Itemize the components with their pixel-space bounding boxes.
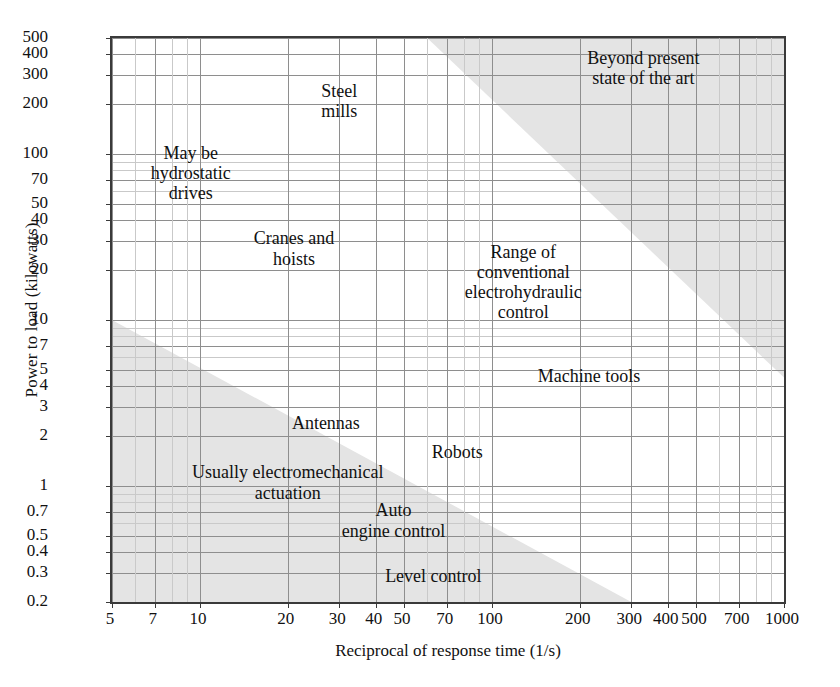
gridline-horizontal: [112, 270, 784, 271]
y-tick-label: 40: [0, 210, 48, 227]
y-tick-label: 300: [0, 64, 48, 81]
gridline-horizontal: [112, 370, 784, 371]
x-tick-label: 70: [436, 610, 453, 627]
y-tick-mark: [106, 180, 112, 181]
y-tick-label: 7: [0, 335, 48, 352]
y-tick-mark: [106, 552, 112, 553]
gridline-horizontal: [112, 502, 784, 503]
y-tick-label: 0.4: [0, 542, 48, 559]
gridline-horizontal: [112, 241, 784, 242]
y-tick-mark: [106, 346, 112, 347]
x-tick-label: 30: [329, 610, 346, 627]
gridline-vertical: [739, 38, 740, 602]
gridline-horizontal: [112, 357, 784, 358]
x-tick-mark: [288, 602, 289, 608]
gridline-horizontal: [112, 54, 784, 55]
gridline-horizontal: [112, 204, 784, 205]
x-tick-mark: [696, 602, 697, 608]
y-tick-label: 4: [0, 376, 48, 393]
y-tick-label: 0.3: [0, 562, 48, 579]
x-tick-mark: [447, 602, 448, 608]
gridline-horizontal: [112, 552, 784, 553]
y-tick-mark: [106, 204, 112, 205]
gridline-horizontal: [112, 523, 784, 524]
y-tick-mark: [106, 573, 112, 574]
gridline-horizontal: [112, 154, 784, 155]
gridline-vertical: [447, 38, 448, 602]
y-tick-mark: [106, 512, 112, 513]
y-tick-mark: [106, 436, 112, 437]
gridline-vertical: [172, 38, 173, 602]
y-tick-mark: [106, 241, 112, 242]
gridline-vertical: [696, 38, 697, 602]
gridline-horizontal: [112, 486, 784, 487]
x-tick-label: 7: [148, 610, 157, 627]
x-tick-mark: [112, 602, 113, 608]
gridline-vertical: [155, 38, 156, 602]
x-tick-label: 1000: [765, 610, 799, 627]
x-tick-mark: [492, 602, 493, 608]
gridline-horizontal: [112, 407, 784, 408]
y-tick-mark: [106, 220, 112, 221]
x-tick-mark: [404, 602, 405, 608]
gridline-horizontal: [112, 38, 784, 39]
gridline-vertical: [464, 38, 465, 602]
x-axis-title: Reciprocal of response time (1/s): [110, 641, 786, 661]
gridline-horizontal: [112, 336, 784, 337]
gridline-vertical: [631, 38, 632, 602]
y-tick-mark: [106, 154, 112, 155]
y-tick-mark: [106, 270, 112, 271]
x-tick-mark: [668, 602, 669, 608]
gridline-horizontal: [112, 346, 784, 347]
x-tick-mark: [155, 602, 156, 608]
x-tick-label: 40: [365, 610, 382, 627]
y-tick-label: 3: [0, 396, 48, 413]
gridline-vertical: [668, 38, 669, 602]
x-tick-mark: [376, 602, 377, 608]
y-tick-label: 10: [0, 310, 48, 327]
y-tick-mark: [106, 536, 112, 537]
gridline-horizontal: [112, 75, 784, 76]
y-tick-mark: [106, 104, 112, 105]
gridline-horizontal: [112, 180, 784, 181]
x-tick-label: 300: [617, 610, 643, 627]
x-tick-mark: [631, 602, 632, 608]
x-tick-mark: [339, 602, 340, 608]
x-tick-label: 400: [653, 610, 679, 627]
gridline-vertical: [404, 38, 405, 602]
y-tick-mark: [106, 54, 112, 55]
gridline-vertical: [492, 38, 493, 602]
x-tick-label: 5: [106, 610, 115, 627]
chart-figure: Power to load (kilowatts) Reciprocal of …: [0, 0, 840, 687]
gridline-vertical: [112, 38, 113, 602]
gridline-horizontal: [112, 191, 784, 192]
x-tick-mark: [784, 602, 785, 608]
gridline-vertical: [288, 38, 289, 602]
y-tick-label: 20: [0, 260, 48, 277]
gridline-horizontal: [112, 220, 784, 221]
y-tick-mark: [106, 486, 112, 487]
gridline-horizontal: [112, 162, 784, 163]
x-tick-label: 20: [277, 610, 294, 627]
y-tick-mark: [106, 407, 112, 408]
x-tick-label: 700: [724, 610, 750, 627]
gridline-vertical: [200, 38, 201, 602]
x-tick-mark: [200, 602, 201, 608]
gridline-horizontal: [112, 512, 784, 513]
shaded-region-electromechanical: [112, 320, 631, 602]
gridline-horizontal: [112, 494, 784, 495]
gridline-vertical: [719, 38, 720, 602]
y-tick-mark: [106, 370, 112, 371]
gridline-vertical: [135, 38, 136, 602]
gridline-vertical: [580, 38, 581, 602]
x-tick-mark: [739, 602, 740, 608]
gridline-vertical: [376, 38, 377, 602]
gridline-vertical: [427, 38, 428, 602]
y-tick-label: 400: [0, 44, 48, 61]
x-tick-mark: [580, 602, 581, 608]
y-tick-mark: [106, 38, 112, 39]
y-tick-mark: [106, 75, 112, 76]
gridline-horizontal: [112, 104, 784, 105]
gridline-vertical: [187, 38, 188, 602]
gridline-horizontal: [112, 386, 784, 387]
